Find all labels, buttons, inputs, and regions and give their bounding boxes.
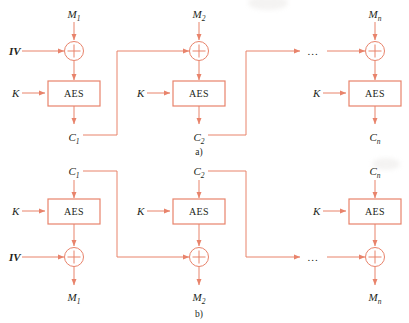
xor-gate-an (366, 42, 385, 61)
aes-label-b1: AES (64, 206, 84, 217)
aes-label-an: AES (365, 88, 385, 99)
label-a2-message: M2 (192, 8, 206, 23)
label-b1-key: K (11, 205, 20, 217)
cbc-mode-figure: AES AES AES AES AES AES M1 M2 Mn IV K K … (0, 0, 409, 323)
label-b1-message-out: M1 (67, 291, 81, 306)
label-bn-message-out: Mn (368, 291, 382, 306)
label-a2-key: K (136, 87, 145, 99)
label-a-iv: IV (8, 45, 22, 57)
caption-part-a: a) (195, 147, 202, 158)
xor-gate-b1 (65, 248, 84, 267)
diagram-canvas: AES AES AES AES AES AES M1 M2 Mn IV K K … (0, 0, 409, 323)
xor-gate-a2 (190, 42, 209, 61)
ellipsis-part-a: ... (307, 45, 318, 57)
label-a2-cipher-out: C2 (193, 131, 204, 146)
label-an-key: K (312, 87, 321, 99)
caption-part-b: b) (195, 309, 203, 320)
aes-label-bn: AES (365, 206, 385, 217)
xor-layer (65, 42, 385, 267)
xor-gate-bn (366, 248, 385, 267)
label-an-cipher-out: Cn (369, 131, 380, 146)
label-bn-cipher-in: Cn (369, 165, 380, 180)
label-a1-key: K (11, 87, 20, 99)
aes-label-a1: AES (64, 88, 84, 99)
label-b2-message-out: M2 (192, 291, 206, 306)
aes-label-b2: AES (189, 206, 209, 217)
aes-label-a2: AES (189, 88, 209, 99)
label-a1-message: M1 (67, 8, 81, 23)
xor-gate-b2 (190, 248, 209, 267)
label-b2-key: K (136, 205, 145, 217)
label-bn-key: K (312, 205, 321, 217)
cipher-box-layer: AES AES AES AES AES AES (48, 81, 401, 224)
label-b1-cipher-in: C1 (68, 165, 79, 180)
label-b2-cipher-in: C2 (193, 165, 204, 180)
xor-gate-a1 (65, 42, 84, 61)
label-b-iv: IV (8, 251, 22, 263)
label-a1-cipher-out: C1 (68, 131, 79, 146)
ellipsis-part-b: ... (307, 251, 318, 263)
label-an-message: Mn (368, 8, 382, 23)
